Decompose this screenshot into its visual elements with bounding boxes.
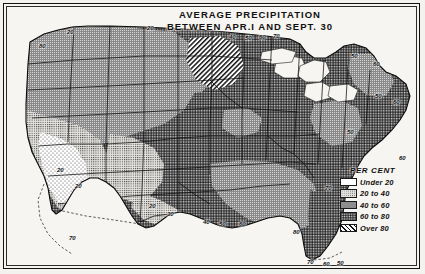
legend-swatch-60-to-80-icon bbox=[340, 212, 357, 221]
isoline-label: 20 bbox=[57, 167, 64, 173]
isoline-label: 80 bbox=[293, 229, 300, 235]
isoline-label: 60 bbox=[259, 34, 266, 40]
legend-item-40-to-60: 40 to 60 bbox=[340, 200, 395, 210]
legend-label-40-to-60: 40 to 60 bbox=[360, 201, 390, 210]
isoline-label: 80 bbox=[39, 43, 46, 49]
legend-item-over-80: Over 80 bbox=[340, 223, 395, 233]
isoline-label: 60 bbox=[373, 61, 380, 67]
isoline-label: 20 bbox=[75, 183, 82, 189]
legend-swatch-under-20-icon bbox=[340, 178, 357, 187]
legend-item-20-to-40: 20 to 40 bbox=[340, 189, 395, 199]
isoline-label: 60 bbox=[399, 155, 406, 161]
isoline-label: 50 bbox=[245, 35, 252, 41]
isoline-label: 40 bbox=[203, 219, 210, 225]
legend-item-60-to-80: 60 to 80 bbox=[340, 212, 395, 222]
legend-title: PER CENT bbox=[350, 166, 395, 175]
legend-swatch-40-to-60-icon bbox=[340, 201, 357, 210]
isoline-label: 50 bbox=[337, 260, 344, 266]
legend-swatch-over-80-icon bbox=[340, 224, 357, 233]
isoline-label: 50 bbox=[219, 221, 226, 227]
isoline-label: 20 bbox=[149, 203, 156, 209]
isoline-label: 60 bbox=[393, 99, 400, 105]
isoline-label: 50 bbox=[351, 53, 358, 59]
isoline-label: 70 bbox=[325, 185, 332, 191]
isoline-label: 40 bbox=[229, 34, 236, 40]
legend-label-over-80: Over 80 bbox=[360, 224, 389, 233]
legend-item-under-20: Under 20 bbox=[340, 177, 395, 187]
isoline-label: 30 bbox=[167, 211, 174, 217]
legend-label-60-to-80: 60 to 80 bbox=[360, 212, 390, 221]
legend-swatch-20-to-40-icon bbox=[340, 189, 357, 198]
precipitation-map-figure: 20 40 50 60 70 80 20 20 20 20 30 40 50 6… bbox=[0, 0, 425, 274]
legend-label-20-to-40: 20 to 40 bbox=[360, 189, 390, 198]
isoline-label: 50 bbox=[347, 129, 354, 135]
isoline-label: 50 bbox=[375, 93, 382, 99]
legend-label-under-20: Under 20 bbox=[360, 178, 394, 187]
isoline-label: 70 bbox=[69, 235, 76, 241]
map-legend: PER CENT Under 20 20 to 40 40 to 60 60 t… bbox=[340, 166, 395, 235]
isoline-label: 60 bbox=[323, 261, 330, 267]
isoline-label: 60 bbox=[239, 221, 246, 227]
isoline-label: 70 bbox=[273, 33, 280, 39]
isoline-label: 70 bbox=[307, 259, 314, 265]
isoline-label: 20 bbox=[67, 29, 74, 35]
isoline-label: 20 bbox=[147, 25, 154, 31]
